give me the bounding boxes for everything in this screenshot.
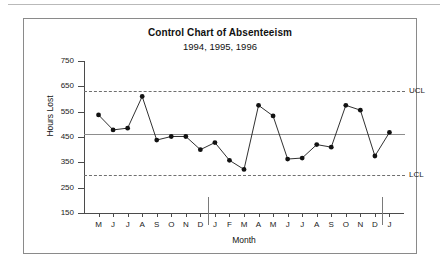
data-point xyxy=(358,108,363,113)
data-point xyxy=(373,154,378,159)
data-point xyxy=(314,142,319,147)
data-point xyxy=(329,145,334,150)
data-point xyxy=(125,126,130,131)
data-point xyxy=(387,130,392,135)
data-point xyxy=(96,113,101,118)
data-point xyxy=(213,140,218,145)
data-point xyxy=(242,167,247,172)
data-point xyxy=(285,157,290,162)
data-point xyxy=(271,114,276,119)
data-point xyxy=(111,128,116,133)
data-point xyxy=(300,156,305,161)
data-point xyxy=(169,134,174,139)
chart-figure-frame: Control Chart of Absenteeism 1994, 1995,… xyxy=(23,18,417,254)
page-root: Control Chart of Absenteeism 1994, 1995,… xyxy=(0,0,448,275)
data-point xyxy=(154,138,159,143)
data-point xyxy=(140,94,145,99)
series-marker-group xyxy=(96,94,392,172)
data-point xyxy=(256,103,261,108)
data-point xyxy=(343,103,348,108)
top-divider-rule xyxy=(8,4,440,5)
plot-area: Hours Lost Month 750650550450350250150 M… xyxy=(24,19,418,255)
series-svg xyxy=(24,19,418,255)
data-point xyxy=(227,158,232,163)
data-point xyxy=(198,147,203,152)
data-point xyxy=(183,134,188,139)
